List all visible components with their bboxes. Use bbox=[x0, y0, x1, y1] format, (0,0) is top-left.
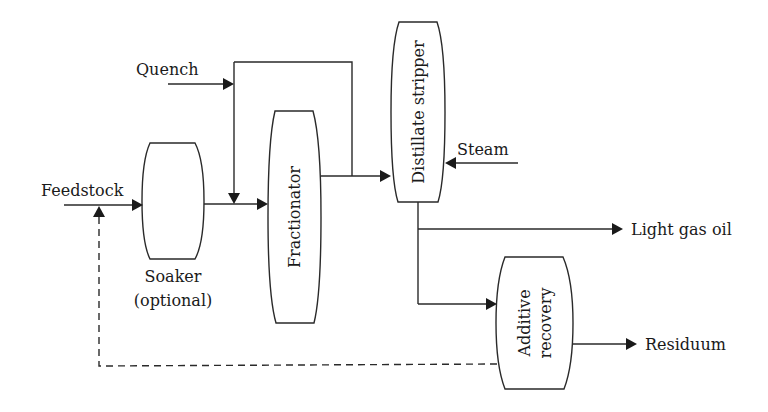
arrowhead bbox=[228, 193, 240, 204]
recovery-label: recovery bbox=[536, 288, 555, 359]
arrowhead bbox=[445, 157, 456, 169]
soaker-label: Soaker bbox=[145, 267, 202, 286]
arrowhead bbox=[223, 78, 234, 90]
arrowhead bbox=[486, 298, 497, 310]
arrowhead bbox=[626, 338, 637, 350]
light-gas-oil-label: Light gas oil bbox=[631, 220, 732, 239]
additive-recovery-vessel bbox=[496, 257, 573, 389]
quench-label: Quench bbox=[136, 60, 198, 79]
arrowhead bbox=[257, 198, 268, 210]
residuum-label: Residuum bbox=[645, 335, 726, 354]
additive-label: Additive bbox=[515, 289, 534, 357]
fractionator-label: Fractionator bbox=[285, 166, 304, 268]
arrowhead bbox=[612, 223, 623, 235]
arrowhead bbox=[93, 206, 105, 217]
steam-label: Steam bbox=[457, 140, 509, 159]
arrowhead bbox=[380, 170, 391, 182]
distillate-stripper-label: Distillate stripper bbox=[409, 40, 428, 184]
feedstock-label: Feedstock bbox=[41, 181, 124, 200]
soaker-vessel bbox=[142, 143, 204, 259]
process-flow-diagram: Quench Feedstock Soaker (optional) Fract… bbox=[0, 0, 768, 412]
soaker-optional-label: (optional) bbox=[134, 291, 213, 310]
